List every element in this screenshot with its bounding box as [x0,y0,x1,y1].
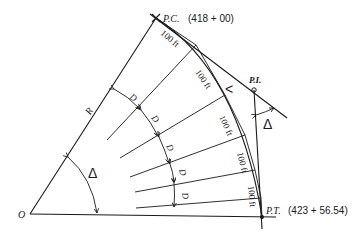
pt-label: P.T. [265,205,281,216]
deflection-angle-arc [256,108,274,115]
chord-label-5: 100 ft [246,185,258,208]
chord-label-3: 100 ft [217,114,235,138]
d-label-3: D [164,142,176,154]
curve-diagram: P.C. (418 + 00) P.I. P.T. (423 + 56.54) … [0,0,364,235]
d-arc-4 [170,164,174,182]
pc-label: P.C. [162,13,180,24]
deflection-angle-label: Δ [263,116,272,132]
tangent-mark: < [225,81,233,97]
radius-line-pc [30,18,156,214]
radius-line-pt [30,214,276,217]
d-label-4: D [177,167,189,177]
pi-label: P.I. [249,75,261,85]
pc-station: (418 + 00) [188,13,234,24]
radial-line [136,198,261,208]
d-label-1: D [127,91,139,104]
d-arc-5 [174,183,175,207]
pt-point-marker [260,215,264,219]
d-label-5: D [180,191,191,200]
pc-point-marker [152,14,160,22]
o-label: O [18,209,25,220]
chord-label-1: 100 ft [159,28,182,50]
pt-station: (423 + 56.54) [288,205,348,216]
radial-line [135,170,255,192]
central-angle-label: Δ [88,165,97,181]
tangent-line-back [150,14,287,118]
